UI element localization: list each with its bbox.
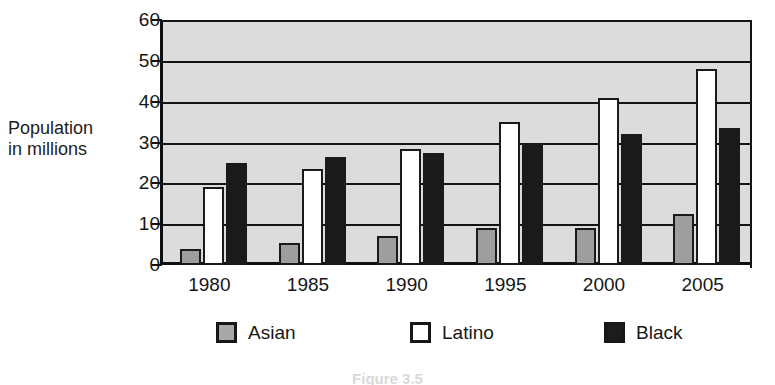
bar-asian-1985: [279, 243, 300, 265]
legend-swatch-asian-icon: [216, 322, 237, 343]
x-axis-tick-label-1995: 1995: [456, 274, 555, 296]
bar-asian-2000: [575, 228, 596, 265]
bar-latino-1995: [499, 122, 520, 265]
legend-item-latino[interactable]: Latino: [410, 318, 494, 346]
x-axis-tick-label-1985: 1985: [259, 274, 358, 296]
x-axis-tick-label-1980: 1980: [160, 274, 259, 296]
x-axis-tick-label-2000: 2000: [555, 274, 654, 296]
bar-asian-1995: [476, 228, 497, 265]
legend-swatch-latino-icon: [410, 322, 431, 343]
bar-series-container: [160, 20, 752, 265]
bar-black-1985: [325, 157, 346, 265]
legend-swatch-black-icon: [604, 322, 625, 343]
legend-item-black[interactable]: Black: [604, 318, 682, 346]
y-axis-tick-mark: [152, 182, 162, 184]
y-axis-tick-mark: [152, 142, 162, 144]
bar-latino-1980: [203, 187, 224, 265]
chart-legend: AsianLatinoBlack: [160, 318, 760, 348]
bar-latino-1985: [302, 169, 323, 265]
bar-black-1995: [522, 143, 543, 266]
x-axis-tick-label-1990: 1990: [357, 274, 456, 296]
y-axis-tick-mark: [152, 264, 162, 266]
legend-label: Asian: [248, 323, 296, 342]
bar-asian-1980: [180, 249, 201, 265]
bar-asian-1990: [377, 236, 398, 265]
y-axis-tick-mark: [152, 223, 162, 225]
legend-label: Latino: [442, 323, 494, 342]
legend-item-asian[interactable]: Asian: [216, 318, 296, 346]
legend-label: Black: [636, 323, 682, 342]
bar-latino-2005: [696, 69, 717, 265]
figure-caption: Figure 3.5: [0, 372, 775, 385]
bar-asian-2005: [673, 214, 694, 265]
bar-black-1990: [423, 153, 444, 265]
y-axis-tick-mark: [152, 19, 162, 21]
bar-latino-1990: [400, 149, 421, 265]
bar-chart-figure: Population in millions 0102030405060 198…: [0, 0, 775, 385]
x-axis-ticks: 198019851990199520002005: [160, 274, 752, 300]
x-axis-tick-label-2005: 2005: [653, 274, 752, 296]
bar-black-1980: [226, 163, 247, 265]
bar-latino-2000: [598, 98, 619, 265]
y-axis-tick-mark: [152, 101, 162, 103]
bar-black-2000: [621, 134, 642, 265]
bar-black-2005: [719, 128, 740, 265]
y-axis-tick-mark: [152, 60, 162, 62]
